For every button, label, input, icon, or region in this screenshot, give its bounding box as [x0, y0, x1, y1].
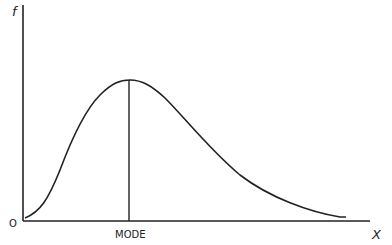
distribution-diagram: f O MODE X — [0, 0, 392, 245]
distribution-curve — [25, 80, 346, 218]
y-axis-label: f — [12, 4, 19, 19]
origin-label: O — [9, 218, 17, 229]
mode-label: MODE — [115, 229, 146, 240]
x-axis-label: X — [371, 227, 382, 242]
